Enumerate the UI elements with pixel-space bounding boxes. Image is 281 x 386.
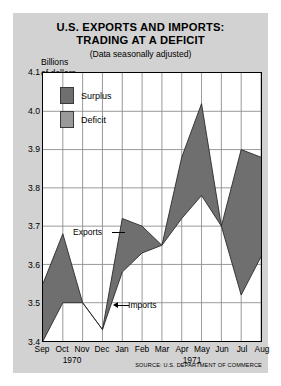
- imports-arrow-icon: [113, 302, 118, 308]
- period-label-1970: 1970: [63, 355, 82, 365]
- x-tick-jan: Jan: [115, 344, 129, 354]
- imports-leader-line: [117, 305, 129, 306]
- chart-legend: Surplus Deficit: [60, 87, 112, 135]
- imports-callout-label: Imports: [128, 300, 157, 310]
- chart-figure: U.S. EXPORTS AND IMPORTS: TRADING AT A D…: [13, 13, 268, 373]
- y-tick-3.7: 3.7: [16, 221, 40, 231]
- source-note: SOURCE: U.S. DEPARTMENT OF COMMERCE: [135, 362, 262, 368]
- chart-title-block: U.S. EXPORTS AND IMPORTS: TRADING AT A D…: [13, 21, 268, 60]
- x-tick-feb: Feb: [135, 344, 149, 354]
- x-tick-aug: Aug: [255, 344, 270, 354]
- y-tick-4.0: 4.0: [16, 106, 40, 116]
- page-title-line-1: U.S. EXPORTS AND IMPORTS:: [13, 21, 268, 34]
- exports-leader-line: [112, 232, 125, 233]
- y-axis-tick-labels: 3.43.53.63.73.83.94.04.1: [13, 72, 40, 342]
- y-axis-units-line-1: Billions: [41, 57, 76, 68]
- legend-item-deficit: Deficit: [60, 111, 112, 128]
- legend-item-surplus: Surplus: [60, 87, 112, 104]
- x-tick-oct: Oct: [55, 344, 68, 354]
- x-tick-nov: Nov: [75, 344, 90, 354]
- x-tick-jun: Jun: [215, 344, 229, 354]
- deficit-swatch-icon: [60, 111, 74, 128]
- y-tick-4.1: 4.1: [16, 67, 40, 77]
- y-tick-3.6: 3.6: [16, 260, 40, 270]
- x-tick-sep: Sep: [35, 344, 50, 354]
- x-tick-mar: Mar: [155, 344, 169, 354]
- y-tick-3.5: 3.5: [16, 298, 40, 308]
- x-tick-apr: Apr: [175, 344, 188, 354]
- y-tick-3.9: 3.9: [16, 144, 40, 154]
- legend-label-surplus: Surplus: [81, 91, 112, 101]
- surplus-swatch-icon: [60, 87, 74, 104]
- legend-label-deficit: Deficit: [81, 115, 106, 125]
- x-tick-dec: Dec: [95, 344, 110, 354]
- page-title-line-2: TRADING AT A DEFICIT: [13, 34, 268, 47]
- y-tick-3.8: 3.8: [16, 183, 40, 193]
- x-tick-jul: Jul: [237, 344, 248, 354]
- exports-callout-label: Exports: [73, 227, 102, 237]
- x-tick-may: May: [194, 344, 210, 354]
